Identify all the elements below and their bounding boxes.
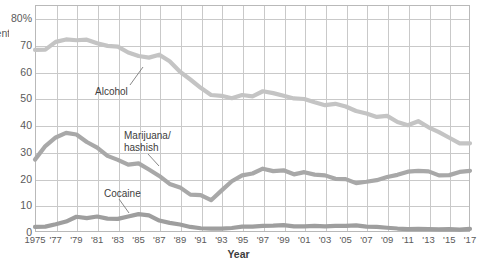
data-series-layer <box>0 0 477 265</box>
annotation-alcohol: Alcohol <box>95 86 128 98</box>
annotation-cocaine: Cocaine <box>104 188 141 200</box>
leader-line-marijuana <box>148 154 159 166</box>
leader-line-alcohol <box>130 67 143 85</box>
series-line-cocaine <box>35 214 470 229</box>
annotation-marijuana: Marijuana/ hashish <box>124 130 171 153</box>
x-axis-title: Year <box>0 248 477 260</box>
series-line-marijuana-hashish <box>35 133 470 200</box>
chart-figure: Percent reporting use 80%706050403020100… <box>0 0 477 265</box>
leader-line-cocaine <box>119 199 129 213</box>
